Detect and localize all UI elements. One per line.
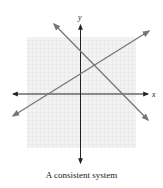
coordinate-grid <box>27 37 136 148</box>
consistent-system-figure: y x A consistent system <box>0 0 163 188</box>
y-axis-label: y <box>77 13 82 22</box>
x-axis-label: x <box>151 90 156 99</box>
graph: y x <box>0 0 163 188</box>
figure-caption: A consistent system <box>0 170 163 180</box>
